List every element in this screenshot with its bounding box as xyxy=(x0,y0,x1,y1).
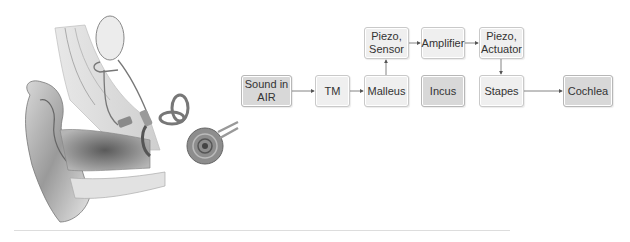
node-amplifier: Amplifier xyxy=(421,27,465,59)
node-stapes: Stapes xyxy=(479,75,524,107)
node-sound-in-air: Sound in AIR xyxy=(241,75,292,107)
node-tm: TM xyxy=(315,75,350,107)
node-incus: Incus xyxy=(421,75,465,107)
node-malleus: Malleus xyxy=(364,75,409,107)
ear-implant-illustration xyxy=(0,0,240,235)
node-piezo-actuator: Piezo, Actuator xyxy=(479,27,524,59)
node-cochlea: Cochlea xyxy=(563,75,613,107)
node-piezo-sensor: Piezo, Sensor xyxy=(364,27,409,59)
bottom-divider xyxy=(14,230,510,231)
